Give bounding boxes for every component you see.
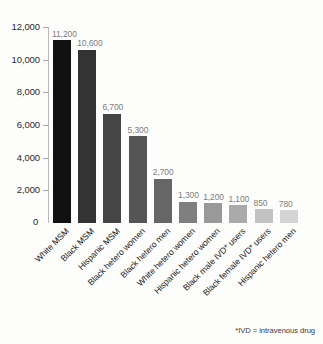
bar[interactable] xyxy=(280,210,298,223)
bar[interactable] xyxy=(129,136,147,223)
bar-chart: 12,00010,0008,0006,0004,0002,000 0 11,20… xyxy=(0,0,323,344)
bar-value-label: 1,100 xyxy=(228,195,249,204)
bar-value-label: 780 xyxy=(279,200,293,209)
y-axis-tick-label: 12,000 xyxy=(0,22,40,32)
clipped-header-text xyxy=(183,0,323,5)
bar[interactable] xyxy=(255,209,273,223)
bar-slot: 10,600 xyxy=(77,26,102,223)
bar-slot: 2,700 xyxy=(153,26,178,223)
y-axis-tick: 8,000 xyxy=(0,92,49,93)
x-axis-category-labels: White MSMBlack MSMHispanic MSMBlack hete… xyxy=(0,226,323,321)
y-axis-tick-label: 10,000 xyxy=(0,55,40,65)
bar[interactable] xyxy=(229,205,247,223)
y-axis-tick: 6,000 xyxy=(0,125,49,126)
bar-slot: 1,300 xyxy=(178,26,203,223)
bar-slot: 5,300 xyxy=(128,26,153,223)
y-axis-tick-label: 4,000 xyxy=(0,153,40,163)
y-axis-tick-mark xyxy=(43,92,49,93)
bar-series: 11,20010,6006,7005,3002,7001,3001,2001,1… xyxy=(52,26,306,223)
y-axis-tick: 2,000 xyxy=(0,190,49,191)
bar-value-label: 6,700 xyxy=(102,103,123,112)
bar-value-label: 850 xyxy=(254,199,268,208)
bar[interactable] xyxy=(154,179,172,223)
bar-slot: 850 xyxy=(254,26,279,223)
bar-slot: 11,200 xyxy=(52,26,77,223)
y-axis-tick-mark xyxy=(43,27,49,28)
y-axis-tick-label: 8,000 xyxy=(0,87,40,97)
bar-slot: 6,700 xyxy=(102,26,127,223)
y-axis-tick-mark xyxy=(43,125,49,126)
bar-value-label: 10,600 xyxy=(77,39,102,48)
bar-slot: 1,200 xyxy=(203,26,228,223)
bar-value-label: 2,700 xyxy=(153,168,174,177)
bar-slot: 780 xyxy=(279,26,304,223)
bar[interactable] xyxy=(179,202,197,223)
bar[interactable] xyxy=(53,40,71,223)
y-axis-tick-mark xyxy=(43,190,49,191)
y-axis-tick: 12,000 xyxy=(0,27,49,28)
chart-footnote: *IVD = intravenous drug xyxy=(235,326,315,335)
bar[interactable] xyxy=(103,114,121,223)
bar-value-label: 1,300 xyxy=(178,191,199,200)
bar-value-label: 5,300 xyxy=(128,126,149,135)
bar[interactable] xyxy=(204,203,222,223)
bar-slot: 1,100 xyxy=(228,26,253,223)
bar-value-label: 1,200 xyxy=(203,193,224,202)
y-axis-tick: 4,000 xyxy=(0,158,49,159)
y-axis-tick-label: 2,000 xyxy=(0,185,40,195)
y-axis-tick-mark xyxy=(43,158,49,159)
bar-value-label: 11,200 xyxy=(52,30,77,39)
y-axis-tick-mark xyxy=(43,60,49,61)
bar[interactable] xyxy=(78,50,96,223)
y-axis-tick: 10,000 xyxy=(0,60,49,61)
y-axis-tick-label: 6,000 xyxy=(0,120,40,130)
